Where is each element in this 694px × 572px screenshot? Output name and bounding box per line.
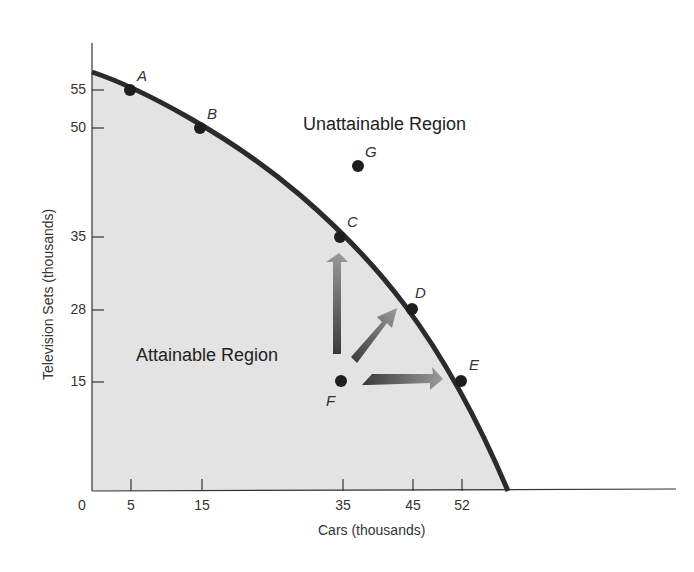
x-axis-label: Cars (thousands) (318, 522, 425, 538)
ppf-chart (0, 0, 694, 572)
point-c-label: C (347, 213, 358, 230)
point-b-label: B (207, 105, 217, 122)
x-tick-15: 15 (187, 497, 217, 513)
point-f-label: F (326, 392, 335, 409)
point-e-label: E (469, 356, 479, 373)
y-tick-35: 35 (56, 228, 86, 244)
x-tick-52: 52 (447, 497, 477, 513)
point-c (334, 231, 346, 243)
unattainable-region-label: Unattainable Region (303, 114, 466, 135)
point-e (455, 375, 467, 387)
y-tick-28: 28 (56, 301, 86, 317)
y-tick-55: 55 (56, 81, 86, 97)
point-g (352, 160, 364, 172)
attainable-region-label: Attainable Region (136, 345, 278, 366)
x-tick-35: 35 (328, 497, 358, 513)
point-f (335, 375, 347, 387)
x-tick-0: 0 (67, 497, 97, 513)
y-axis-label: Television Sets (thousands) (40, 209, 56, 380)
x-tick-45: 45 (398, 497, 428, 513)
y-tick-50: 50 (56, 119, 86, 135)
point-a-label: A (137, 67, 147, 84)
point-a (124, 84, 136, 96)
y-tick-15: 15 (56, 373, 86, 389)
point-d-label: D (415, 284, 426, 301)
point-d (406, 303, 418, 315)
point-b (194, 122, 206, 134)
point-g-label: G (365, 143, 377, 160)
x-tick-5: 5 (116, 497, 146, 513)
